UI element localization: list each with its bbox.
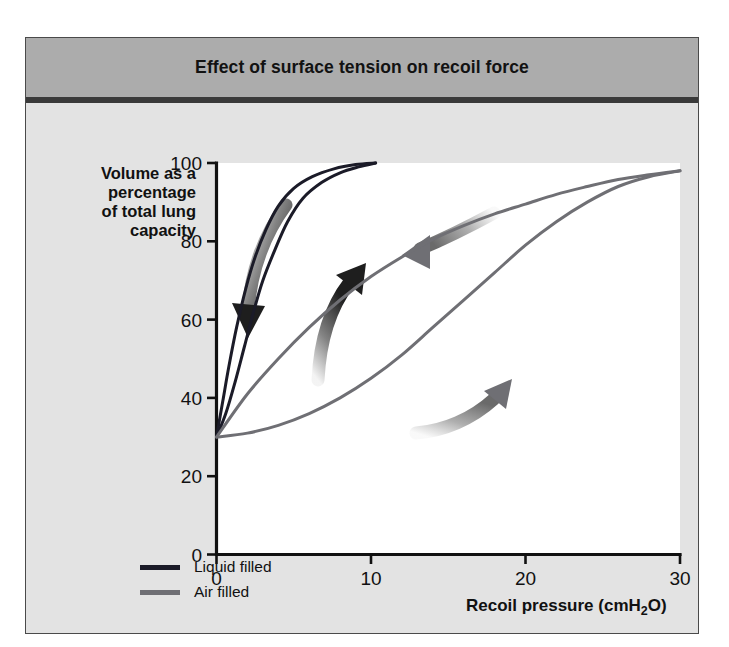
- svg-text:Recoil pressure (cmH2O): Recoil pressure (cmH2O): [466, 596, 667, 618]
- legend-label-liquid-filled: Liquid filled: [194, 558, 272, 576]
- legend-swatch-liquid-filled: [140, 565, 180, 570]
- x-tick-label-20: 20: [515, 568, 536, 589]
- chart-panel: Effect of surface tension on recoil forc…: [25, 37, 699, 634]
- chart-title: Effect of surface tension on recoil forc…: [195, 57, 529, 78]
- figure-container: Effect of surface tension on recoil forc…: [0, 0, 729, 647]
- x-axis-title-main: Recoil pressure (cmH: [466, 596, 641, 615]
- legend-label-air-filled: Air filled: [194, 583, 249, 601]
- y-tick-label-80: 80: [181, 231, 202, 252]
- legend-swatch-air-filled: [140, 590, 180, 595]
- y-axis-label: Volume as a percentage of total lung cap…: [101, 164, 197, 239]
- x-axis-title: Recoil pressure (cmH2O): [466, 596, 667, 618]
- x-axis-title-tail: O): [648, 596, 667, 615]
- y-tick-label-100: 100: [170, 153, 202, 174]
- plot-area-wrapper: Volume as a percentage of total lung cap…: [26, 103, 698, 633]
- y-axis-label-line-3: of total lung: [102, 202, 196, 220]
- legend-item-air-filled[interactable]: Air filled: [140, 583, 440, 601]
- y-axis-label-line-2: percentage: [108, 183, 196, 201]
- y-tick-label-40: 40: [181, 388, 202, 409]
- x-axis-title-subscript: 2: [641, 604, 648, 618]
- legend-item-liquid-filled[interactable]: Liquid filled: [140, 558, 440, 576]
- plot-background: [216, 163, 680, 554]
- legend-container: Liquid filled Air filled: [140, 558, 440, 601]
- y-tick-label-60: 60: [181, 310, 202, 331]
- chart-title-band: Effect of surface tension on recoil forc…: [26, 38, 698, 97]
- y-tick-label-20: 20: [181, 466, 202, 487]
- y-axis-ticks: [207, 163, 216, 555]
- chart-svg: Volume as a percentage of total lung cap…: [26, 103, 698, 633]
- x-tick-label-30: 30: [669, 568, 690, 589]
